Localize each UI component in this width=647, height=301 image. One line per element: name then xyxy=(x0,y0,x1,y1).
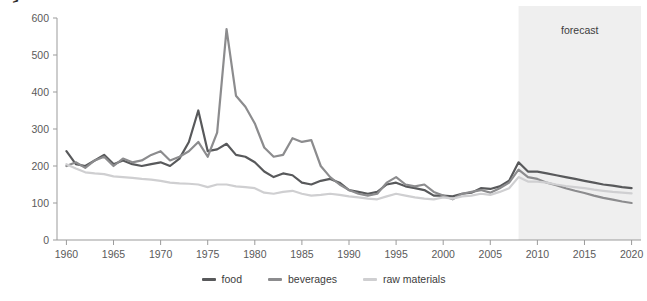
y-axis-tick-label: 500 xyxy=(31,49,49,61)
x-axis-tick-label: 2020 xyxy=(620,248,644,260)
y-axis-tick-label: 200 xyxy=(31,160,49,172)
x-axis-tick-label: 1965 xyxy=(102,248,126,260)
x-axis-tick-label: 1995 xyxy=(384,248,408,260)
forecast-band xyxy=(519,6,641,240)
x-axis-tick-label: 1975 xyxy=(196,248,220,260)
y-axis-title-line1: weighted index in constant xyxy=(9,0,21,3)
x-axis-tick-label: 1960 xyxy=(55,248,79,260)
chart-legend: food beverages raw materials xyxy=(0,273,647,285)
x-axis-tick-label: 2005 xyxy=(479,248,503,260)
x-axis-tick-label: 2015 xyxy=(573,248,597,260)
y-axis-tick-label: 0 xyxy=(43,234,49,246)
legend-swatch-raw-materials xyxy=(363,278,377,281)
legend-item-raw-materials[interactable]: raw materials xyxy=(363,273,445,285)
plot-area: forecast01002003004005006001960196519701… xyxy=(0,0,647,275)
x-axis-tick-label: 1970 xyxy=(149,248,173,260)
y-axis-title-line2: 2000 US$ (2000 = 100) xyxy=(21,0,33,3)
x-axis-tick-label: 1990 xyxy=(337,248,361,260)
legend-swatch-beverages xyxy=(268,278,282,281)
legend-label-beverages: beverages xyxy=(288,273,337,285)
legend-item-beverages[interactable]: beverages xyxy=(268,273,337,285)
y-axis-tick-label: 400 xyxy=(31,86,49,98)
y-axis-tick-label: 300 xyxy=(31,123,49,135)
chart-container: weighted index in constant 2000 US$ (200… xyxy=(0,0,647,301)
y-axis-tick-label: 100 xyxy=(31,197,49,209)
x-axis-tick-label: 2010 xyxy=(526,248,550,260)
x-axis-tick-label: 2000 xyxy=(432,248,456,260)
forecast-label: forecast xyxy=(561,24,598,36)
legend-item-food[interactable]: food xyxy=(202,273,242,285)
y-axis-title: weighted index in constant 2000 US$ (200… xyxy=(2,0,40,38)
legend-label-food: food xyxy=(222,273,242,285)
x-axis-tick-label: 1980 xyxy=(243,248,267,260)
legend-swatch-food xyxy=(202,278,216,281)
x-axis-tick-label: 1985 xyxy=(290,248,314,260)
legend-label-raw-materials: raw materials xyxy=(383,273,445,285)
